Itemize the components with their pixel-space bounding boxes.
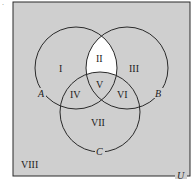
universe-label: U	[177, 170, 185, 179]
dot-marker: ·	[2, 2, 4, 8]
region-viii-label: VIII	[21, 159, 38, 170]
region-ii-label: II	[96, 53, 103, 64]
region-vii-label: VII	[91, 117, 105, 128]
set-label-b: B	[155, 88, 161, 99]
region-i-label: I	[59, 63, 62, 74]
region-iv-label: IV	[70, 89, 81, 100]
set-label-c: C	[96, 146, 103, 157]
set-label-a: A	[37, 88, 45, 99]
venn-diagram: · A B C U I II III IV V VI VII VIII	[0, 0, 193, 179]
region-v-label: V	[96, 79, 104, 90]
region-iii-label: III	[129, 63, 139, 74]
region-vi-label: VI	[117, 89, 128, 100]
